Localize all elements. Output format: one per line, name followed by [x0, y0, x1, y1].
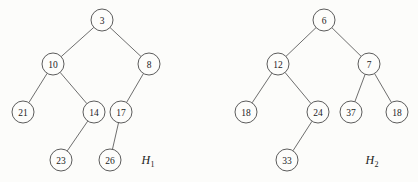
node-value-label: 3	[100, 16, 105, 26]
tree-node: 17	[110, 101, 132, 123]
tree-edge	[332, 28, 361, 57]
tree-node: 24	[307, 101, 329, 123]
tree-node: 21	[12, 101, 34, 123]
node-value-label: 18	[241, 108, 251, 118]
tree-edge	[127, 74, 144, 103]
tree-node: 37	[340, 101, 362, 123]
tree-node: 8	[138, 53, 160, 75]
binary-tree-figure: 3108211417232661271824371833 H1H2	[0, 0, 418, 182]
node-value-label: 6	[322, 16, 327, 26]
tree-edge	[29, 73, 47, 102]
tree-node: 12	[267, 53, 289, 75]
tree-node: 6	[313, 9, 335, 31]
tree-edge	[252, 73, 272, 103]
node-value-label: 7	[367, 60, 372, 70]
svg-text:H1: H1	[140, 153, 154, 168]
tree-edge	[60, 72, 87, 103]
tree-edge	[110, 28, 141, 57]
node-value-label: 37	[346, 108, 356, 118]
node-value-label: 14	[89, 108, 99, 118]
node-value-label: 23	[56, 156, 66, 166]
tree-name-labels-layer: H1H2	[140, 153, 378, 168]
tree-edge	[67, 121, 88, 151]
node-value-label: 10	[48, 60, 58, 70]
tree-node: 18	[235, 101, 257, 123]
node-value-label: 17	[116, 108, 126, 118]
tree-name-label: H2	[364, 153, 378, 168]
node-value-label: 24	[313, 108, 323, 118]
tree-node: 3	[91, 9, 113, 31]
tree-name-label: H1	[140, 153, 154, 168]
tree-diagram-canvas: 3108211417232661271824371833 H1H2	[0, 0, 418, 182]
tree-node: 33	[276, 149, 298, 171]
tree-node: 14	[83, 101, 105, 123]
svg-text:H2: H2	[364, 153, 378, 168]
tree-edge	[285, 72, 311, 103]
node-value-label: 12	[273, 60, 283, 70]
tree-edge	[286, 28, 316, 57]
tree-edge	[355, 74, 365, 101]
node-value-label: 26	[105, 156, 115, 166]
node-value-label: 21	[18, 108, 28, 118]
tree-node: 7	[358, 53, 380, 75]
nodes-layer: 3108211417232661271824371833	[12, 9, 408, 171]
tree-edge	[293, 121, 312, 151]
node-value-label: 18	[392, 108, 402, 118]
node-value-label: 8	[147, 60, 152, 70]
tree-edge	[112, 123, 118, 150]
tree-node: 26	[99, 149, 121, 171]
tree-node: 18	[386, 101, 408, 123]
node-value-label: 33	[282, 156, 292, 166]
tree-edge	[375, 74, 392, 103]
edges-layer	[29, 27, 392, 151]
tree-node: 10	[42, 53, 64, 75]
tree-node: 23	[50, 149, 72, 171]
tree-edge	[61, 27, 94, 56]
